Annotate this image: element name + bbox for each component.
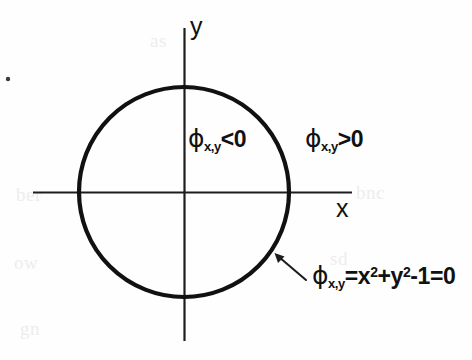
stray-dot <box>6 77 10 81</box>
phi-symbol: ϕ <box>188 124 204 153</box>
phi-relation: >0 <box>338 126 363 152</box>
phi-subscript: x,y <box>321 139 338 154</box>
phi-subscript: x,y <box>204 139 221 154</box>
equals-zero: =0 <box>430 263 455 289</box>
phi-negative-label: ϕx,y<0 <box>188 126 246 153</box>
phi-symbol: ϕ <box>312 261 328 290</box>
y-axis-label: y <box>190 14 203 39</box>
exponent-x: 2 <box>370 264 377 280</box>
phi-symbol: ϕ <box>305 124 321 153</box>
term-y: y <box>391 263 403 289</box>
equals-sign: = <box>345 263 358 289</box>
plus-sign: + <box>378 263 391 289</box>
level-set-equation-label: ϕx,y=x2+y2-1=0 <box>312 263 455 290</box>
phi-positive-label: ϕx,y>0 <box>305 126 363 153</box>
term-x: x <box>358 263 370 289</box>
phi-relation: <0 <box>221 126 246 152</box>
figure-canvas: bnc ber ow sd as gn y x ϕx,y<0 ϕx,y>0 ϕx… <box>0 0 472 360</box>
annotation-arrow <box>275 253 307 280</box>
diagram-svg <box>0 0 472 360</box>
phi-subscript: x,y <box>328 276 345 291</box>
x-axis-label: x <box>336 196 349 221</box>
minus-one: -1 <box>410 263 430 289</box>
